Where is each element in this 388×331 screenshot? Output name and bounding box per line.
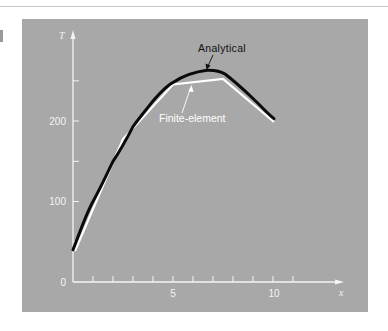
annotation-analytical: Analytical <box>198 42 246 54</box>
y-axis-arrow-icon <box>71 30 76 39</box>
y-tick-label-100: 100 <box>49 196 66 207</box>
x-ticks <box>93 276 293 282</box>
analytical-annotation-arrow <box>206 55 214 70</box>
x-axis-label: x <box>338 287 344 298</box>
series-finite-element <box>75 79 274 251</box>
x-tick-label-10: 10 <box>268 288 280 299</box>
line-chart: 0 100 200 5 10 T x Analytical Finite-ele… <box>0 0 388 331</box>
x-axis <box>73 280 344 285</box>
y-ticks <box>73 81 79 242</box>
y-tick-label-200: 200 <box>49 116 66 127</box>
y-axis-label: T <box>59 30 66 41</box>
finite-element-annotation-arrow <box>182 85 194 113</box>
x-tick-label-5: 5 <box>170 288 176 299</box>
x-axis-arrow-icon <box>335 280 344 285</box>
y-tick-label-0: 0 <box>60 277 66 288</box>
arrow-head-icon <box>189 85 194 92</box>
annotation-finite-element: Finite-element <box>159 112 226 124</box>
